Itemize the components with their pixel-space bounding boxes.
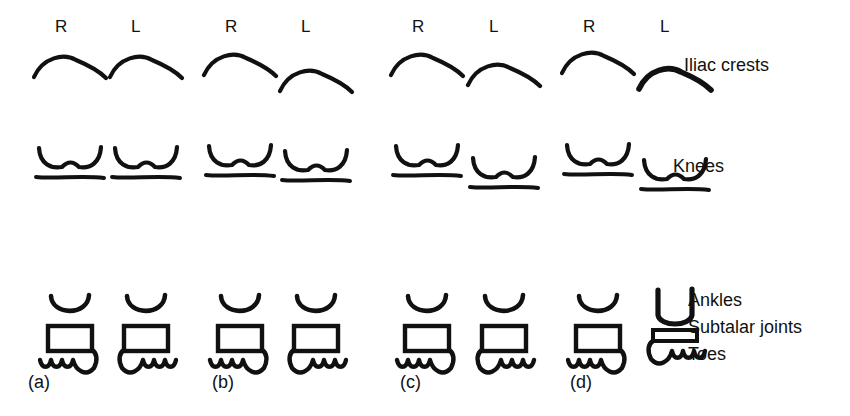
toes-a-L bbox=[120, 350, 176, 372]
iliac-crest-d-R bbox=[562, 53, 634, 74]
knee-c-L-baseline bbox=[470, 187, 538, 188]
ankle-a-R bbox=[51, 295, 89, 311]
subtalar-joint-a-R bbox=[48, 326, 92, 351]
ankle-b-R bbox=[221, 295, 259, 311]
knee-d-R-cup bbox=[567, 144, 629, 164]
toes-d-R bbox=[568, 350, 624, 372]
toes-c-R bbox=[397, 350, 453, 372]
row-label-subtalar: Subtalar joints bbox=[688, 317, 802, 337]
iliac-crest-a-R bbox=[34, 57, 106, 78]
knee-b-L-cup bbox=[285, 150, 347, 170]
side-letter-d-L: L bbox=[660, 17, 670, 36]
side-letter-d-R: R bbox=[583, 17, 596, 36]
knee-a-L-cup bbox=[115, 147, 177, 167]
side-letter-a-L: L bbox=[131, 17, 141, 36]
knee-a-L-baseline bbox=[112, 177, 180, 178]
side-letter-b-R: R bbox=[225, 17, 238, 36]
toes-b-R bbox=[210, 350, 266, 372]
ankle-c-R bbox=[408, 295, 446, 311]
side-letter-a-R: R bbox=[55, 17, 68, 36]
subtalar-joint-c-R bbox=[405, 326, 449, 351]
subtalar-joint-a-L bbox=[124, 326, 168, 351]
knee-d-R-baseline bbox=[564, 174, 632, 175]
knee-d-L-baseline bbox=[641, 189, 709, 190]
panel-label-a: (a) bbox=[28, 372, 50, 392]
panel-label-c: (c) bbox=[400, 372, 421, 392]
toes-a-R bbox=[40, 350, 96, 372]
anatomical-diagram: RL(a)RL(b)RL(c)RL(d)Iliac crestsKneesAnk… bbox=[0, 0, 850, 416]
row-label-iliac-crests: Iliac crests bbox=[684, 55, 769, 75]
ankle-d-R bbox=[579, 295, 617, 311]
knee-b-R-cup bbox=[209, 145, 271, 165]
knee-c-R-baseline bbox=[393, 175, 461, 176]
iliac-crest-b-L bbox=[280, 71, 352, 92]
subtalar-joint-c-L bbox=[482, 326, 526, 351]
iliac-crest-c-R bbox=[391, 55, 463, 76]
subtalar-joint-d-R bbox=[576, 326, 620, 351]
toes-b-L bbox=[290, 350, 346, 372]
knee-a-R-cup bbox=[39, 147, 101, 167]
ankle-b-L bbox=[297, 295, 335, 311]
ankle-a-L bbox=[127, 295, 165, 311]
toes-c-L bbox=[478, 350, 534, 372]
ankle-d-L bbox=[658, 289, 692, 324]
side-letter-b-L: L bbox=[301, 17, 311, 36]
iliac-crest-a-L bbox=[110, 57, 182, 78]
row-label-knees: Knees bbox=[673, 156, 724, 176]
knee-a-R-baseline bbox=[36, 177, 104, 178]
iliac-crest-c-L bbox=[468, 65, 540, 86]
row-label-ankles: Ankles bbox=[688, 290, 742, 310]
iliac-crest-b-R bbox=[204, 55, 276, 76]
panel-label-b: (b) bbox=[212, 372, 234, 392]
row-label-toes: Toes bbox=[688, 344, 726, 364]
subtalar-joint-b-R bbox=[218, 326, 262, 351]
side-letter-c-R: R bbox=[412, 17, 425, 36]
knee-b-L-baseline bbox=[282, 180, 350, 181]
knee-b-R-baseline bbox=[206, 175, 274, 176]
ankle-c-L bbox=[485, 295, 523, 311]
side-letter-c-L: L bbox=[489, 17, 499, 36]
knee-c-L-cup bbox=[473, 157, 535, 177]
knee-c-R-cup bbox=[396, 145, 458, 165]
panel-label-d: (d) bbox=[570, 372, 592, 392]
subtalar-joint-b-L bbox=[294, 326, 338, 351]
diagram-canvas: RL(a)RL(b)RL(c)RL(d)Iliac crestsKneesAnk… bbox=[0, 0, 850, 416]
